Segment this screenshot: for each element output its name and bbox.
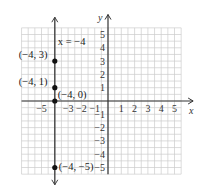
x-tick-label: 3	[145, 103, 150, 114]
x-tick-label: −5	[36, 103, 47, 114]
data-point	[52, 165, 57, 170]
x-tick-label: −2	[76, 103, 87, 114]
x-axis-label: x	[188, 105, 194, 116]
point-label: (−4, 3)	[19, 49, 48, 61]
point-label: (−4, 0)	[58, 89, 87, 101]
x-tick-label: 5	[172, 103, 177, 114]
y-tick-label: 3	[100, 56, 105, 67]
y-tick-label: 5	[100, 29, 105, 40]
y-tick-label: 4	[100, 42, 105, 53]
data-point	[52, 98, 57, 103]
coordinate-plane: xy −5−3−2−11234554321−1−2−3−4−5 x = −4 (…	[0, 0, 204, 188]
y-tick-label: −2	[94, 122, 105, 133]
axes: xy	[22, 12, 195, 175]
data-point	[52, 85, 57, 90]
x-tick-label: 4	[159, 103, 164, 114]
y-tick-label: −1	[94, 109, 105, 120]
y-tick-label: −3	[94, 135, 105, 146]
data-point	[52, 59, 57, 64]
point-label: (−4, −5)	[59, 161, 94, 173]
line-equation-label: x = −4	[58, 36, 86, 47]
y-axis-label: y	[97, 12, 103, 23]
y-tick-label: 2	[100, 69, 105, 80]
point-label: (−4, 1)	[19, 76, 48, 88]
y-tick-label: 1	[100, 82, 105, 93]
y-tick-label: −5	[94, 162, 105, 173]
x-tick-label: 2	[132, 103, 137, 114]
x-tick-label: 1	[119, 103, 124, 114]
x-tick-label: −3	[63, 103, 74, 114]
y-tick-label: −4	[94, 149, 105, 160]
